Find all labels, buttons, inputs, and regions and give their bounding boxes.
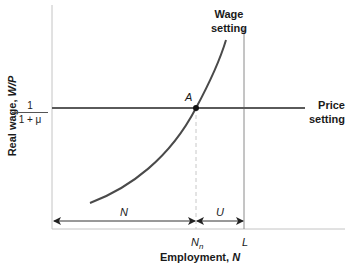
wage-setting-label-line1: Wage bbox=[209, 7, 249, 21]
x-axis-label-text: Employment, bbox=[160, 251, 232, 263]
natural-employment-symbol: N bbox=[191, 236, 199, 248]
natural-employment-subscript: n bbox=[199, 242, 203, 251]
wage-setting-label-line2: setting bbox=[209, 21, 249, 35]
wage-setting-label: Wage setting bbox=[209, 7, 249, 35]
x-axis-label: Employment, N bbox=[160, 251, 240, 263]
unemployment-span-label: U bbox=[216, 206, 224, 218]
x-axis-label-var: N bbox=[232, 251, 240, 263]
employment-span-label: N bbox=[120, 206, 128, 218]
diagram-canvas bbox=[0, 0, 349, 266]
y-axis-label-var: W/P bbox=[6, 76, 18, 97]
fraction-denominator: 1 + μ bbox=[12, 113, 48, 125]
fraction-numerator: 1 bbox=[12, 100, 48, 113]
price-setting-label: Price setting bbox=[305, 98, 345, 126]
price-setting-label-line1: Price bbox=[305, 98, 345, 112]
natural-employment-tick-label: Nn bbox=[191, 236, 203, 251]
point-a-label: A bbox=[185, 91, 192, 103]
labor-force-tick-label: L bbox=[242, 236, 248, 248]
y-tick-markup-fraction: 1 1 + μ bbox=[12, 100, 48, 125]
price-setting-label-line2: setting bbox=[305, 112, 345, 126]
wage-setting-curve bbox=[90, 40, 226, 203]
equilibrium-point bbox=[193, 105, 199, 111]
